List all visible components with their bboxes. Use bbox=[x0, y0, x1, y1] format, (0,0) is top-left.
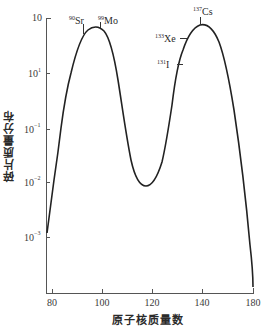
y-tick-exponent: −2 bbox=[34, 175, 40, 181]
y-tick-label: 10 bbox=[24, 177, 34, 188]
chart-canvas: 80 100 120 140 180 10 10 1 10 −1 10 −2 1… bbox=[0, 0, 271, 333]
y-tick-exponent: −3 bbox=[34, 230, 40, 236]
sr-label: 90Sr bbox=[69, 15, 85, 26]
y-tick-exponent: −1 bbox=[34, 122, 40, 128]
x-tick-label: 180 bbox=[246, 297, 261, 308]
i-label: 131I bbox=[157, 59, 169, 70]
y-tick-label: 10 bbox=[28, 68, 38, 79]
x-axis-title: 原子核质量数 bbox=[112, 311, 184, 327]
x-tick-label: 140 bbox=[195, 297, 210, 308]
x-tick-label: 100 bbox=[95, 297, 110, 308]
x-tick-label: 80 bbox=[47, 297, 57, 308]
cs-label: 137Cs bbox=[193, 6, 213, 17]
y-tick-label: 10 bbox=[32, 12, 42, 23]
y-tick-label: 10 bbox=[24, 232, 34, 243]
xe-label: 133Xe bbox=[155, 33, 176, 44]
distribution-curve bbox=[47, 25, 253, 287]
y-tick-label: 10 bbox=[24, 124, 34, 135]
y-axis-title: 碎片质量分布 bbox=[2, 110, 20, 182]
y-tick-exponent: 1 bbox=[38, 67, 41, 73]
x-tick-label: 120 bbox=[145, 297, 160, 308]
